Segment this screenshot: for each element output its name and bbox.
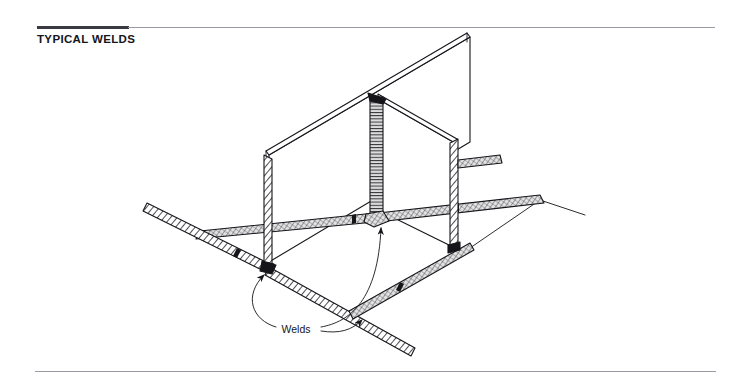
figure-geometry: Welds <box>143 33 585 356</box>
welds-label: Welds <box>282 323 311 335</box>
left-plate-edge-weld <box>262 155 274 272</box>
near-plate-base-stub-weld <box>458 155 502 168</box>
corner-vertical-weld <box>368 93 386 218</box>
typical-welds-figure: Welds <box>0 0 735 387</box>
right-plate-edge-weld <box>448 139 460 253</box>
page-root: TYPICAL WELDS <box>0 0 735 387</box>
bottom-rule <box>35 371 716 372</box>
front-left-base-weld <box>143 203 268 271</box>
